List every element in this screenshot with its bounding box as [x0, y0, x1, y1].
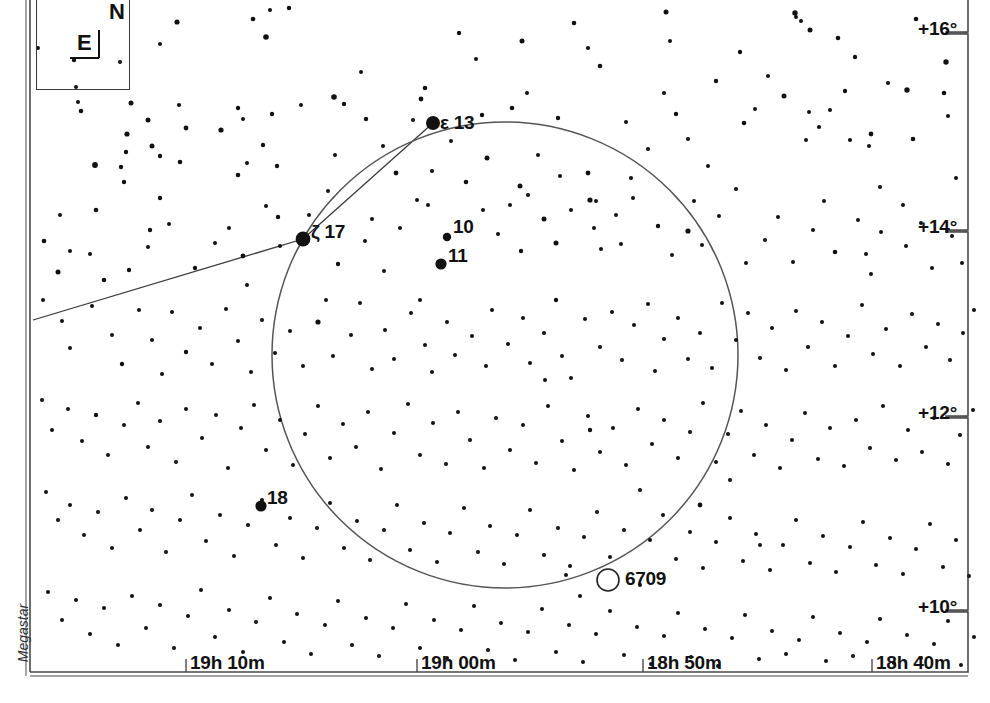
star-dot [261, 143, 265, 147]
star-dot [564, 573, 568, 577]
star-dot [828, 108, 832, 112]
star-dot [354, 445, 358, 449]
star-dot [610, 310, 614, 314]
star-dot [227, 608, 231, 612]
star-dot [620, 358, 624, 362]
star-dot [474, 57, 478, 61]
star-dot [426, 203, 430, 207]
star-dot [331, 354, 335, 358]
star-dot [794, 15, 798, 19]
star-dot [676, 456, 680, 460]
star-dot [728, 478, 732, 482]
star-dot [698, 331, 702, 335]
star-dot [288, 516, 292, 520]
star-dot [324, 298, 328, 302]
star-dot [331, 94, 337, 100]
star-dot [363, 239, 367, 243]
star-dot [276, 215, 280, 219]
named-star-dot [296, 232, 311, 247]
named-star-dot [443, 233, 451, 241]
star-dot [184, 350, 188, 354]
star-dot [158, 42, 162, 46]
star-dot [124, 150, 128, 154]
star-dot [744, 261, 748, 265]
star-dot [540, 607, 544, 611]
star-dot [411, 118, 415, 122]
star-dot [274, 543, 278, 547]
star-dot [808, 561, 812, 565]
star-dot [932, 642, 936, 646]
star-dot [307, 213, 311, 217]
star-dot [784, 652, 788, 656]
star-dot [592, 226, 596, 230]
star-dot [791, 260, 795, 264]
star-dot [218, 127, 223, 132]
star-dot [582, 535, 586, 539]
star-dot [94, 208, 99, 213]
star-dot [946, 462, 950, 466]
chart-frame [26, 0, 968, 676]
star-dot [204, 539, 208, 543]
star-dot [688, 530, 692, 534]
star-dot [763, 238, 767, 242]
star-dot [315, 526, 319, 530]
star-dot [110, 333, 114, 337]
star-dot [144, 626, 148, 630]
star-dot [806, 345, 810, 349]
sky-canvas [0, 0, 990, 703]
star-dot [303, 432, 307, 436]
star-dot [878, 185, 882, 189]
star-dot [567, 623, 571, 627]
star-dot [94, 413, 98, 417]
star-dot [757, 657, 761, 661]
star-dot [662, 337, 666, 341]
star-dot [948, 358, 952, 362]
named-star-dot [435, 258, 446, 269]
star-dot [836, 36, 841, 41]
star-dot [799, 19, 803, 23]
star-dot [519, 249, 523, 253]
star-dot [686, 137, 690, 141]
star-dot [122, 423, 126, 427]
star-dot [301, 556, 305, 560]
star-dot [662, 418, 666, 422]
star-dot [526, 630, 530, 634]
star-dot [392, 357, 396, 361]
star-dot [631, 196, 635, 200]
star-dot [946, 619, 950, 623]
star-dot [521, 423, 525, 427]
star-dot [60, 618, 64, 622]
star-dot [714, 540, 718, 544]
star-dot [119, 165, 123, 169]
star-dot [960, 261, 964, 265]
label-star-11: 11 [448, 245, 468, 267]
star-dot [418, 453, 422, 457]
star-dot [629, 176, 633, 180]
star-dot [170, 310, 174, 314]
star-dot [636, 407, 640, 411]
star-dot [395, 503, 399, 507]
star-dot [869, 132, 874, 137]
star-dot [776, 215, 780, 219]
star-dot [686, 357, 690, 361]
star-dot [946, 114, 950, 118]
star-dot [646, 302, 650, 306]
star-dot [558, 174, 562, 178]
star-dot [422, 521, 426, 525]
star-dot [315, 319, 320, 324]
star-dot [430, 169, 434, 173]
star-dot [210, 362, 214, 366]
star-dot [972, 635, 976, 639]
star-dot [910, 312, 914, 316]
star-dot [453, 353, 457, 357]
star-dot [746, 311, 750, 315]
star-dot [662, 634, 666, 638]
star-dot [459, 628, 463, 632]
star-dot [942, 91, 947, 96]
star-dot [742, 121, 747, 126]
star-dot [568, 564, 572, 568]
star-dot [728, 516, 732, 520]
star-dot [214, 413, 218, 417]
star-dot [833, 364, 837, 368]
star-dot [236, 173, 241, 178]
